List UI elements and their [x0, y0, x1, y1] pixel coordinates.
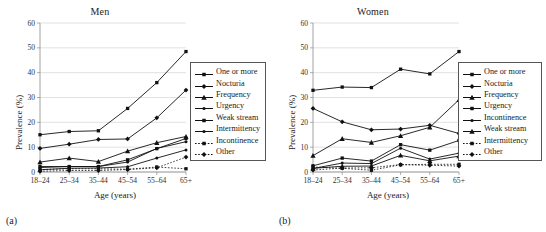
svg-text:65+: 65+: [180, 176, 192, 185]
svg-text:60: 60: [27, 19, 35, 28]
x-axis-label-women: Age (years): [313, 190, 463, 200]
legend-marker-square-icon: [194, 112, 214, 123]
legend-marker-dot-icon: [194, 100, 214, 111]
svg-text:65+: 65+: [453, 176, 465, 185]
figure-container: Men Prevalence (%) 010203040506018–2425–…: [0, 0, 546, 232]
legend-item: Urgency: [194, 100, 261, 111]
x-axis-label-men: Age (years): [40, 190, 190, 200]
legend-marker-triangle-icon: [194, 89, 214, 100]
legend-item: Intermittency: [194, 123, 261, 134]
legend-label: Intermittency: [214, 123, 260, 134]
legend-label: Frequency: [482, 89, 519, 100]
legend-item: One or more: [462, 66, 537, 77]
svg-text:55–64: 55–64: [420, 176, 439, 185]
svg-text:30: 30: [300, 93, 308, 102]
svg-text:25–34: 25–34: [333, 176, 352, 185]
svg-text:18–24: 18–24: [31, 176, 50, 185]
svg-text:45–54: 45–54: [391, 176, 410, 185]
legend-marker-triangle-icon: [462, 89, 482, 100]
legend-item: Frequency: [194, 89, 261, 100]
legend-item: Weak stream: [194, 112, 261, 123]
legend-label: One or more: [214, 66, 257, 77]
legend-item: Incontinence: [462, 112, 537, 123]
svg-text:30: 30: [27, 93, 35, 102]
legend-marker-square-icon: [462, 100, 482, 111]
panel-label-a: (a): [6, 215, 17, 226]
legend-label: Incontinence: [482, 112, 526, 123]
legend-label: Frequency: [214, 89, 251, 100]
legend-item: Urgency: [462, 100, 537, 111]
legend-marker-square-icon: [194, 66, 214, 77]
svg-text:60: 60: [300, 19, 308, 28]
svg-text:25–34: 25–34: [60, 176, 79, 185]
legend-label: Weak stream: [214, 112, 258, 123]
svg-text:40: 40: [27, 68, 35, 77]
legend-label: Other: [482, 146, 503, 157]
svg-text:18–24: 18–24: [304, 176, 323, 185]
svg-text:50: 50: [27, 43, 35, 52]
legend-item: Other: [194, 146, 261, 157]
legend-marker-diamond-icon: [194, 78, 214, 89]
legend-label: Intermittency: [482, 135, 528, 146]
legend-item: Nocturia: [462, 77, 537, 88]
panel-men: Men Prevalence (%) 010203040506018–2425–…: [0, 0, 273, 232]
legend-item: Nocturia: [194, 77, 261, 88]
legend-marker-diamond-icon: [194, 146, 214, 157]
svg-text:20: 20: [27, 118, 35, 127]
svg-text:10: 10: [27, 143, 35, 152]
legend-women: One or moreNocturiaFrequencyUrgencyIncon…: [458, 62, 542, 161]
legend-item: Intermittency: [462, 134, 537, 145]
legend-item: Weak stream: [462, 123, 537, 134]
legend-marker-square-icon: [462, 135, 482, 146]
panel-label-b: (b): [279, 215, 291, 226]
legend-marker-dot-icon: [194, 123, 214, 134]
legend-label: Urgency: [214, 100, 244, 111]
legend-marker-triangle-icon: [462, 123, 482, 134]
svg-text:35–44: 35–44: [362, 176, 381, 185]
svg-text:35–44: 35–44: [89, 176, 108, 185]
svg-text:50: 50: [300, 43, 308, 52]
svg-text:10: 10: [300, 143, 308, 152]
legend-label: Incontinence: [214, 135, 258, 146]
legend-label: Nocturia: [482, 78, 513, 89]
legend-label: Urgency: [482, 100, 512, 111]
legend-marker-diamond-icon: [462, 78, 482, 89]
legend-label: Other: [214, 146, 235, 157]
legend-item: Frequency: [462, 89, 537, 100]
svg-text:40: 40: [300, 68, 308, 77]
legend-item: One or more: [194, 66, 261, 77]
legend-marker-diamond-icon: [462, 146, 482, 157]
legend-item: Other: [462, 146, 537, 157]
svg-text:20: 20: [300, 118, 308, 127]
legend-marker-square-icon: [462, 66, 482, 77]
legend-marker-square-icon: [194, 135, 214, 146]
legend-label: One or more: [482, 66, 525, 77]
legend-item: Incontinence: [194, 134, 261, 145]
legend-label: Weak stream: [482, 123, 526, 134]
legend-label: Nocturia: [214, 78, 245, 89]
panel-women: Women Prevalence (%) 010203040506018–242…: [273, 0, 546, 232]
svg-text:45–54: 45–54: [118, 176, 137, 185]
legend-men: One or moreNocturiaFrequencyUrgencyWeak …: [190, 62, 266, 161]
svg-text:55–64: 55–64: [147, 176, 166, 185]
legend-marker-dot-icon: [462, 112, 482, 123]
